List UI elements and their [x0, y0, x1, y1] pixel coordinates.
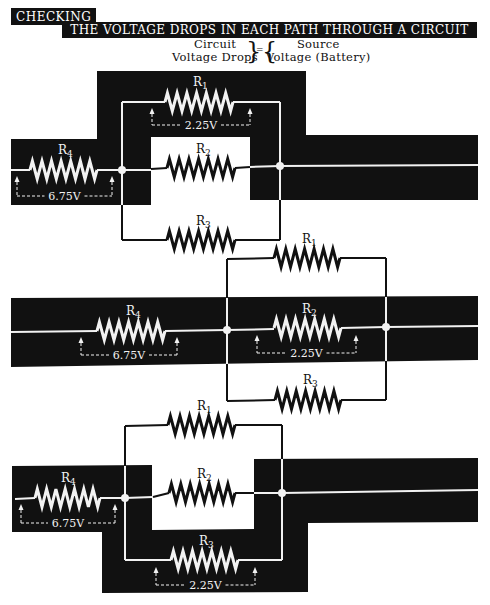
junction-node-left — [121, 494, 129, 502]
resistor-zigzag-icon — [275, 391, 341, 409]
resistor-label: R3 — [303, 373, 318, 389]
resistor-r1: R1 — [274, 232, 340, 267]
voltage-drop-label: 6.75V — [113, 349, 146, 362]
resistor-label: R1 — [197, 399, 212, 415]
resistor-r3: R3 — [167, 214, 235, 249]
resistor-zigzag-icon — [168, 416, 235, 434]
resistor-zigzag-icon — [167, 231, 235, 249]
resistor-r2: R2 — [167, 142, 235, 177]
resistor-label: R3 — [196, 214, 211, 230]
resistor-label: R2 — [196, 142, 211, 158]
voltage-drop-label: 6.75V — [52, 517, 85, 530]
voltage-drop-label: 2.25V — [185, 119, 218, 132]
voltage-drop-label: 2.25V — [189, 579, 222, 592]
diagram-path-r4-r2: R4 R1 R2 R3 6.75V 2.25V — [11, 232, 478, 409]
resistor-r2: R2 — [169, 467, 235, 502]
diagram-path-r4-r3: R4 R1 R2 R3 6.75V 2.25V — [12, 399, 478, 593]
junction-node-left — [223, 326, 231, 334]
resistor-zigzag-icon — [274, 249, 340, 267]
highlight-path-shape — [11, 71, 478, 205]
diagram-path-r4-r1: R4 R1 R2 R3 6.75V 2.25V — [11, 71, 478, 249]
junction-node-right — [382, 323, 390, 331]
junction-node-left — [118, 166, 126, 174]
junction-node-right — [278, 489, 286, 497]
resistor-r1: R1 — [168, 399, 235, 434]
voltage-drop-label: 6.75V — [48, 190, 81, 203]
resistor-zigzag-icon — [167, 159, 235, 177]
junction-node-right — [276, 162, 284, 170]
resistor-r3: R3 — [275, 373, 341, 409]
resistor-label: R1 — [302, 232, 317, 248]
resistor-label: R2 — [197, 467, 212, 483]
circuit-diagrams: R4 R1 R2 R3 6.75V 2.25V R4 R1 — [0, 0, 490, 605]
voltage-drop-label: 2.25V — [290, 347, 323, 360]
resistor-zigzag-icon — [169, 484, 235, 502]
